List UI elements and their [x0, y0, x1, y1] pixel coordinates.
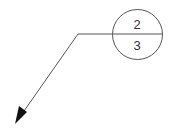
callout-bottom-number: 3: [133, 38, 140, 53]
detail-callout-diagram: 2 3: [0, 0, 175, 129]
leader-line: [24, 34, 163, 111]
callout-top-number: 2: [133, 17, 140, 32]
